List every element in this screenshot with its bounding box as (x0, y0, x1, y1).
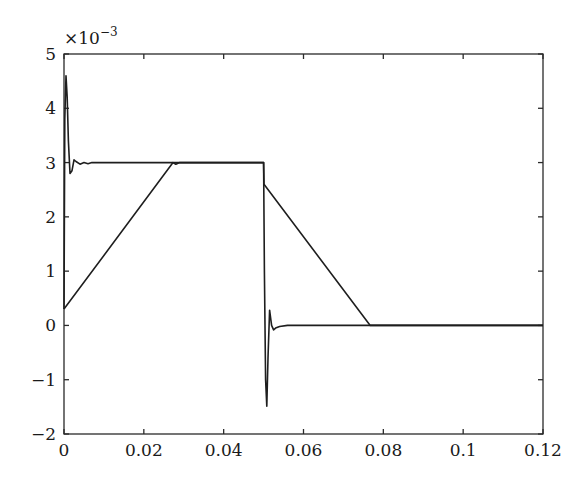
x-axis-ticks: 00.020.040.060.080.10.12 (59, 54, 562, 460)
y-axis-multiplier: ×10−3 (64, 25, 118, 48)
y-tick-label: 4 (45, 98, 56, 118)
y-tick-label: 2 (45, 207, 56, 227)
series-group (64, 76, 543, 407)
plot-frame (64, 54, 543, 434)
line-chart: 00.020.040.060.080.10.12 −2−1012345 ×10−… (0, 0, 585, 494)
series-line-reference-ramp (64, 163, 543, 326)
x-tick-label: 0.1 (450, 440, 477, 460)
y-tick-label: −2 (31, 424, 56, 444)
y-tick-label: 5 (45, 44, 56, 64)
x-tick-label: 0.02 (125, 440, 163, 460)
y-tick-label: 3 (45, 153, 56, 173)
y-axis-ticks: −2−1012345 (31, 44, 543, 444)
x-tick-label: 0.06 (285, 440, 323, 460)
x-tick-label: 0 (59, 440, 70, 460)
y-multiplier-exp: −3 (100, 25, 118, 39)
x-tick-label: 0.08 (364, 440, 402, 460)
y-tick-label: −1 (31, 370, 56, 390)
y-tick-label: 1 (45, 261, 56, 281)
x-tick-label: 0.12 (524, 440, 562, 460)
series-line-response (64, 76, 543, 407)
y-tick-label: 0 (45, 315, 56, 335)
x-tick-label: 0.04 (205, 440, 243, 460)
y-multiplier-base: ×10 (64, 28, 100, 48)
